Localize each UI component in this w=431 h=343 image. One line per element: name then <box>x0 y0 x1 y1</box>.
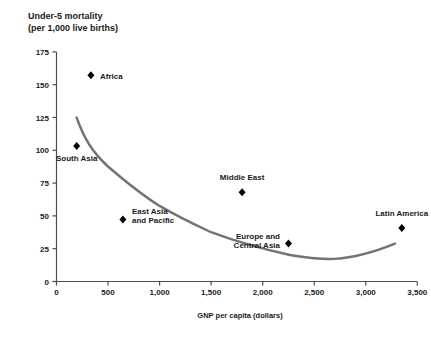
y-tick-label-75: 75 <box>40 179 49 188</box>
y-tick-label-50: 50 <box>40 212 49 221</box>
x-tick-label-2000: 2,000 <box>253 288 274 297</box>
y-tick-label-125: 125 <box>36 114 50 123</box>
data-point-europe-and-central-asia[interactable] <box>285 240 292 248</box>
data-point-latin-america[interactable] <box>398 224 405 232</box>
y-tick-label-150: 150 <box>36 81 50 90</box>
x-tick-label-3000: 3,000 <box>356 288 377 297</box>
data-point-south-asia[interactable] <box>73 142 80 150</box>
x-tick-label-500: 500 <box>101 288 115 297</box>
data-label-europe-and-central-asia-line-2: Central Asia <box>234 241 281 250</box>
x-tick-label-1500: 1,500 <box>201 288 222 297</box>
y-tick-label-25: 25 <box>40 245 49 254</box>
x-axis-title: GNP per capita (dollars) <box>197 311 283 320</box>
x-tick-label-0: 0 <box>54 288 59 297</box>
data-label-middle-east: Middle East <box>220 173 265 182</box>
x-tick-label-1000: 1,000 <box>150 288 171 297</box>
data-point-east-asia-and-pacific[interactable] <box>119 216 126 224</box>
data-label-east-asia-and-pacific-line-1: East Asia <box>132 207 168 216</box>
data-label-europe-and-central-asia-line-1: Europe and <box>236 232 280 241</box>
y-tick-label-175: 175 <box>36 48 50 57</box>
chart-container: Under-5 mortality (per 1,000 live births… <box>0 0 431 343</box>
data-point-middle-east[interactable] <box>239 188 246 196</box>
data-label-east-asia-and-pacific-line-2: and Pacific <box>132 216 175 225</box>
data-label-latin-america: Latin America <box>375 209 428 218</box>
x-tick-label-2500: 2,500 <box>304 288 325 297</box>
y-tick-label-100: 100 <box>36 146 50 155</box>
y-tick-label-0: 0 <box>45 278 50 287</box>
data-point-africa[interactable] <box>87 71 94 79</box>
data-label-africa: Africa <box>100 72 123 81</box>
data-label-south-asia: South Asia <box>56 154 98 163</box>
chart-plot-area: 0 25 50 75 100 125 150 175 0 500 1,000 1… <box>0 0 431 343</box>
x-tick-label-3500: 3,500 <box>407 288 428 297</box>
